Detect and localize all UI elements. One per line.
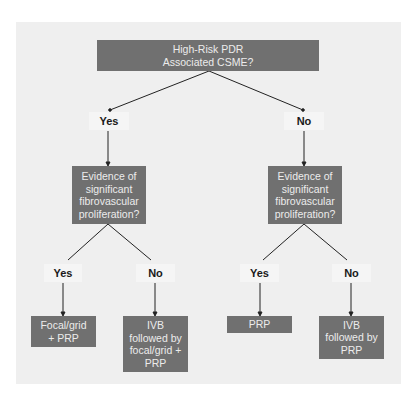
result-box-prp: PRP xyxy=(227,316,292,333)
answer-yes-text: Yes xyxy=(100,115,119,127)
question-box-right: Evidence of significant fibrovascular pr… xyxy=(268,166,342,224)
answer-label-right-yes: Yes xyxy=(240,264,279,282)
question-right-text: Evidence of significant fibrovascular pr… xyxy=(275,170,336,220)
left-yes-text: Yes xyxy=(54,267,73,279)
answer-label-yes: Yes xyxy=(89,112,129,130)
result-text: IVB followed by focal/grid + PRP xyxy=(129,319,182,369)
left-no-text: No xyxy=(148,267,163,279)
answer-no-text: No xyxy=(297,115,312,127)
answer-label-left-no: No xyxy=(136,264,175,282)
result-text: Focal/grid + PRP xyxy=(40,319,86,344)
answer-label-right-no: No xyxy=(332,264,371,282)
right-yes-text: Yes xyxy=(250,267,269,279)
root-question-box: High-Risk PDR Associated CSME? xyxy=(97,40,319,71)
question-box-left: Evidence of significant fibrovascular pr… xyxy=(72,166,146,224)
result-box-focal-grid-prp: Focal/grid + PRP xyxy=(31,316,96,347)
question-left-text: Evidence of significant fibrovascular pr… xyxy=(79,170,140,220)
result-text: IVB followed by PRP xyxy=(325,319,378,357)
answer-label-no: No xyxy=(284,112,324,130)
right-no-text: No xyxy=(344,267,359,279)
result-box-ivb-prp: IVB followed by PRP xyxy=(319,316,384,359)
result-text: PRP xyxy=(249,318,271,331)
root-question-text: High-Risk PDR Associated CSME? xyxy=(163,43,253,68)
result-box-ivb-focal-grid-prp: IVB followed by focal/grid + PRP xyxy=(123,316,188,372)
answer-label-left-yes: Yes xyxy=(44,264,82,282)
